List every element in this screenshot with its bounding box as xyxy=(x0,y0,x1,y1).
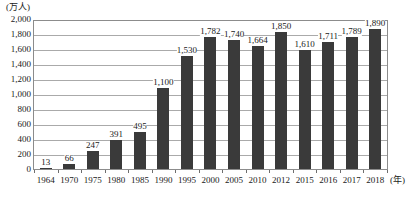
bar-value-label: 1,890 xyxy=(365,19,385,28)
x-axis-tick-label: 2018 xyxy=(366,175,384,186)
y-axis-tick-label: 600 xyxy=(1,120,31,129)
bar xyxy=(346,37,358,169)
bar xyxy=(110,140,122,169)
x-axis-tick xyxy=(199,170,200,173)
bar xyxy=(322,42,334,169)
bar-slot: 1,100 xyxy=(152,21,176,169)
x-axis-tick-label: 2012 xyxy=(272,175,290,186)
y-axis-tick-label: 200 xyxy=(1,150,31,159)
bar-slot: 1,789 xyxy=(340,21,364,169)
x-axis-tick xyxy=(269,170,270,173)
x-axis-tick-label: 2000 xyxy=(202,175,220,186)
x-axis-tick-label: 1970 xyxy=(60,175,78,186)
bar-slot: 1,610 xyxy=(293,21,317,169)
x-axis-unit-label: (年) xyxy=(390,175,405,186)
bar xyxy=(252,46,264,169)
bar-value-label: 1,610 xyxy=(295,40,315,49)
bar xyxy=(87,151,99,169)
y-axis-tick-label: 1,800 xyxy=(1,30,31,39)
x-axis-tick xyxy=(246,170,247,173)
bar-value-label: 13 xyxy=(41,158,50,167)
x-axis-tick-label: 2010 xyxy=(249,175,267,186)
x-axis-tick xyxy=(175,170,176,173)
bar-value-label: 1,530 xyxy=(177,46,197,55)
x-axis-tick xyxy=(81,170,82,173)
y-axis-tick-label: 1,400 xyxy=(1,60,31,69)
bar-value-label: 247 xyxy=(86,141,100,150)
bar-slot: 1,664 xyxy=(246,21,270,169)
bar-slot: 1,530 xyxy=(175,21,199,169)
y-axis-tick-labels: 02004006008001,0001,2001,4001,6001,8002,… xyxy=(0,20,31,170)
bar-slot: 391 xyxy=(105,21,129,169)
bar-slot: 495 xyxy=(128,21,152,169)
bar xyxy=(204,37,216,169)
x-axis-tick-label: 1995 xyxy=(178,175,196,186)
x-axis-tick xyxy=(34,170,35,173)
x-axis-tick xyxy=(316,170,317,173)
bar-chart: (万人) 02004006008001,0001,2001,4001,6001,… xyxy=(0,0,417,204)
bar-value-label: 1,740 xyxy=(224,30,244,39)
bar-slot: 1,890 xyxy=(363,21,387,169)
bar-slot: 1,711 xyxy=(316,21,340,169)
bar-slot: 1,740 xyxy=(222,21,246,169)
bar-slot: 13 xyxy=(34,21,58,169)
x-axis-tick xyxy=(340,170,341,173)
y-axis-tick-label: 1,200 xyxy=(1,75,31,84)
x-axis-tick xyxy=(152,170,153,173)
y-axis-tick-label: 1,600 xyxy=(1,45,31,54)
bar xyxy=(134,132,146,169)
bar-series: 13662473914951,1001,5301,7821,7401,6641,… xyxy=(34,21,387,169)
bar xyxy=(40,168,52,169)
bar-value-label: 66 xyxy=(65,154,74,163)
bar-slot: 247 xyxy=(81,21,105,169)
bar-value-label: 1,789 xyxy=(342,27,362,36)
bar-value-label: 1,664 xyxy=(247,36,267,45)
x-axis-tick-label: 1964 xyxy=(37,175,55,186)
bar-value-label: 1,711 xyxy=(318,32,338,41)
bar xyxy=(275,32,287,169)
x-axis-tick xyxy=(128,170,129,173)
y-axis-tick-label: 800 xyxy=(1,105,31,114)
x-axis-ticks xyxy=(33,170,388,174)
x-axis-tick-label: 1990 xyxy=(154,175,172,186)
x-axis-tick-label: 2016 xyxy=(319,175,337,186)
x-axis-tick-label: 2005 xyxy=(225,175,243,186)
bar xyxy=(63,164,75,169)
y-axis-tick-label: 400 xyxy=(1,135,31,144)
bar xyxy=(299,50,311,169)
y-axis-tick-label: 0 xyxy=(1,165,31,174)
x-axis-tick xyxy=(387,170,388,173)
bar-slot: 1,850 xyxy=(269,21,293,169)
x-axis-tick xyxy=(222,170,223,173)
bar-value-label: 1,782 xyxy=(200,27,220,36)
x-axis-tick-label: 2015 xyxy=(296,175,314,186)
x-axis-tick-labels: 1964197019751980198519901995200020052010… xyxy=(33,175,388,189)
x-axis-tick xyxy=(363,170,364,173)
x-axis-tick xyxy=(293,170,294,173)
x-axis-tick xyxy=(105,170,106,173)
bar xyxy=(181,56,193,169)
bar-value-label: 391 xyxy=(110,130,124,139)
bar xyxy=(228,40,240,169)
bar-slot: 1,782 xyxy=(199,21,223,169)
x-axis-tick xyxy=(58,170,59,173)
bar xyxy=(157,88,169,169)
x-axis-tick-label: 1980 xyxy=(107,175,125,186)
y-axis-tick-label: 1,000 xyxy=(1,90,31,99)
y-axis-unit-label: (万人) xyxy=(6,2,30,12)
bar-value-label: 1,850 xyxy=(271,22,291,31)
bar-value-label: 495 xyxy=(133,122,147,131)
x-axis-tick-label: 2017 xyxy=(343,175,361,186)
x-axis-tick-label: 1985 xyxy=(131,175,149,186)
bar xyxy=(369,29,381,169)
x-axis-tick-label: 1975 xyxy=(84,175,102,186)
bar-slot: 66 xyxy=(58,21,82,169)
bar-value-label: 1,100 xyxy=(153,78,173,87)
y-axis-tick-label: 2,000 xyxy=(1,15,31,24)
